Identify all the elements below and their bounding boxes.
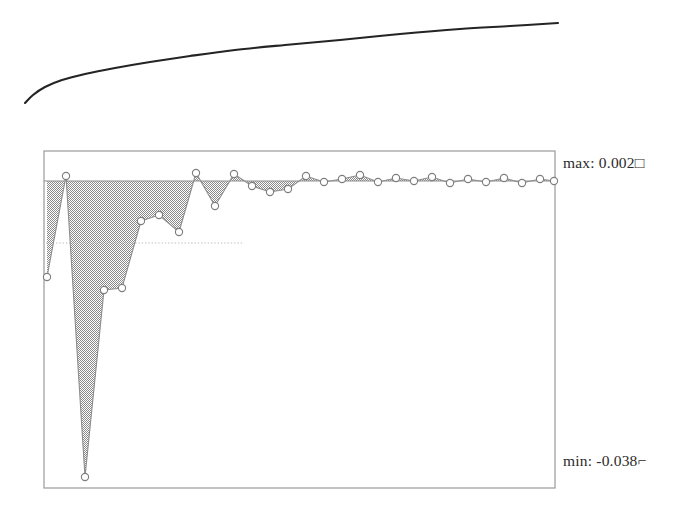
data-point-marker: [550, 177, 557, 184]
data-point-marker: [43, 273, 50, 280]
data-point-marker: [100, 286, 107, 293]
figure-page: max: 0.002□ min: -0.038⌐: [0, 0, 692, 515]
data-point-marker: [500, 174, 507, 181]
upper-curve-svg: [0, 0, 692, 130]
upper-curve-panel: [0, 0, 692, 130]
data-point-marker: [482, 178, 489, 185]
data-point-marker: [464, 175, 471, 182]
data-point-marker: [428, 173, 435, 180]
data-point-marker: [356, 171, 363, 178]
data-point-marker: [211, 202, 218, 209]
data-point-marker: [536, 175, 543, 182]
data-point-marker: [284, 185, 291, 192]
data-point-marker: [518, 179, 525, 186]
data-point-marker: [118, 284, 125, 291]
data-point-marker: [446, 179, 453, 186]
data-point-marker: [338, 175, 345, 182]
data-point-marker: [266, 188, 273, 195]
data-point-marker: [230, 170, 237, 177]
data-point-marker: [175, 228, 182, 235]
data-point-marker: [392, 174, 399, 181]
data-point-marker: [155, 211, 162, 218]
data-point-marker: [192, 169, 199, 176]
max-value-label: max: 0.002□: [563, 154, 644, 172]
data-point-marker: [137, 217, 144, 224]
min-value-label: min: -0.038⌐: [563, 452, 646, 470]
monotonic-curve: [25, 23, 558, 103]
data-point-marker: [302, 172, 309, 179]
data-point-marker: [410, 177, 417, 184]
data-point-marker: [374, 178, 381, 185]
data-point-marker: [62, 172, 69, 179]
residual-area-fill: [47, 173, 554, 477]
data-point-marker: [248, 182, 255, 189]
data-point-marker: [81, 473, 88, 480]
data-point-marker: [320, 178, 327, 185]
